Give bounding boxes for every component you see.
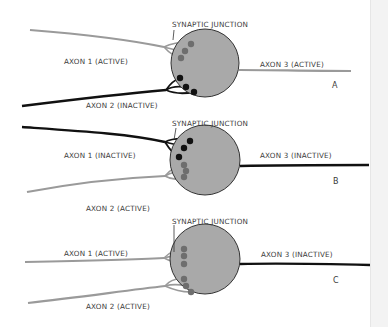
cell-body [170, 125, 240, 195]
terminal [176, 154, 182, 160]
axon-3-label: AXON 3 (INACTIVE) [260, 151, 332, 160]
cell-body [171, 29, 239, 97]
axon-1-label: AXON 1 (ACTIVE) [64, 249, 128, 258]
terminal [181, 276, 187, 282]
terminal [188, 41, 194, 47]
axon-2-label: AXON 2 (INACTIVE) [86, 101, 158, 110]
axon-1-label: AXON 1 (ACTIVE) [64, 57, 128, 66]
cell-body [170, 224, 240, 294]
axon-2-label: AXON 2 (ACTIVE) [86, 302, 150, 311]
axon-1 [25, 258, 164, 262]
terminal [183, 168, 189, 174]
junction-pointer [173, 30, 174, 40]
terminal [177, 75, 183, 81]
axon-2 [27, 176, 165, 192]
panel-a: SYNAPTIC JUNCTION AXON 1 (ACTIVE) AXON 2… [22, 20, 351, 110]
terminal [178, 55, 184, 61]
panel-letter: C [333, 276, 339, 285]
panel-letter: A [332, 81, 338, 90]
terminal [181, 174, 187, 180]
terminal [181, 246, 187, 252]
axon-2 [28, 286, 165, 303]
axon-3 [240, 165, 369, 166]
axon-1 [22, 127, 165, 142]
axon-3 [240, 264, 370, 265]
axon-1 [30, 30, 164, 47]
panel-b: SYNAPTIC JUNCTION AXON 1 (INACTIVE) AXON… [22, 119, 369, 213]
junction-label: SYNAPTIC JUNCTION [172, 20, 248, 29]
axon-3-label: AXON 3 (ACTIVE) [260, 60, 324, 69]
axon-3-label: AXON 3 (INACTIVE) [261, 250, 333, 259]
junction-label: SYNAPTIC JUNCTION [172, 217, 248, 226]
terminal [191, 89, 197, 95]
terminal [182, 48, 188, 54]
terminal [181, 261, 187, 267]
junction-label: SYNAPTIC JUNCTION [172, 119, 248, 128]
panel-letter: B [333, 177, 339, 186]
axon-1-label: AXON 1 (INACTIVE) [64, 151, 136, 160]
terminal [181, 162, 187, 168]
axon-2-label: AXON 2 (ACTIVE) [86, 204, 150, 213]
axon-3 [239, 70, 351, 71]
terminal [183, 84, 189, 90]
terminal [181, 253, 187, 259]
terminal [183, 283, 189, 289]
terminal [188, 289, 194, 295]
terminal [181, 145, 187, 151]
panel-c: SYNAPTIC JUNCTION AXON 1 (ACTIVE) AXON 2… [25, 217, 370, 311]
terminal [187, 138, 193, 144]
